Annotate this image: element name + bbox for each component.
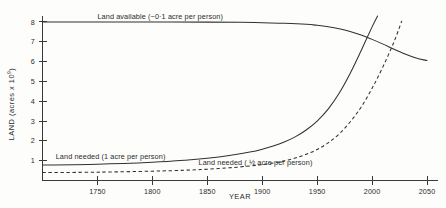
y-tick-label: 4 — [31, 97, 35, 106]
x-tick-label: 1800 — [144, 187, 161, 196]
land-available-label: Land available (~0·1 acre per person) — [97, 12, 223, 21]
chart-series — [43, 16, 428, 173]
land-needed-one-acre-label: Land needed (1 acre per person) — [56, 152, 166, 161]
x-tick-label: 2050 — [419, 187, 436, 196]
y-tick-label: 5 — [31, 77, 35, 86]
svg-text:LAND (acres x 109): LAND (acres x 109) — [6, 68, 16, 141]
land-needed-half-acre-label: Land needed ( ½ acre per person) — [199, 158, 313, 167]
x-tick-label: 1750 — [89, 187, 106, 196]
series-curve-1 — [43, 16, 378, 165]
y-axis-title-close: ) — [7, 68, 16, 71]
series-curve-2 — [43, 21, 402, 173]
y-axis-ticks: 12345678 — [31, 18, 47, 166]
x-axis-ticks: 1750180018501900195020002050 — [89, 176, 435, 196]
y-axis-title: LAND (acres x 109) — [6, 68, 16, 141]
y-tick-label: 7 — [31, 37, 35, 46]
y-tick-label: 1 — [31, 156, 35, 165]
y-tick-label: 8 — [31, 18, 35, 27]
population-land-chart: 12345678 1750180018501900195020002050 YE… — [0, 0, 446, 208]
x-tick-label: 1900 — [254, 187, 271, 196]
y-tick-label: 6 — [31, 57, 35, 66]
x-tick-label: 1850 — [199, 187, 216, 196]
y-axis-title-main: LAND (acres x 10 — [7, 74, 16, 140]
chart-annotations: Land available (~0·1 acre per person)Lan… — [56, 12, 313, 167]
x-tick-label: 2000 — [364, 187, 381, 196]
series-curve-0 — [43, 22, 428, 61]
x-axis-title: YEAR — [229, 192, 251, 201]
y-tick-label: 3 — [31, 117, 35, 126]
chart-canvas: 12345678 1750180018501900195020002050 YE… — [0, 0, 446, 208]
y-tick-label: 2 — [31, 136, 35, 145]
x-tick-label: 1950 — [309, 187, 326, 196]
